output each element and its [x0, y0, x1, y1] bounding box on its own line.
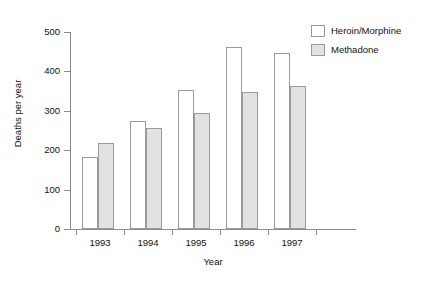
- x-tick: [268, 229, 269, 235]
- y-tick-label: 400: [28, 66, 60, 76]
- y-tick-label: 200: [28, 145, 60, 155]
- bar-chart: 0100200300400500 19931994199519961997 Ye…: [0, 0, 428, 283]
- bar-1994-methadone: [146, 128, 162, 229]
- x-axis-title: Year: [70, 256, 356, 267]
- bar-1997-heroin-morphine: [274, 53, 290, 229]
- plot-area: [70, 32, 355, 229]
- y-tick-label: 100: [28, 185, 60, 195]
- bar-1993-heroin-morphine: [82, 157, 98, 229]
- bar-1993-methadone: [98, 143, 114, 229]
- bar-1995-methadone: [194, 113, 210, 229]
- x-tick: [124, 229, 125, 235]
- x-tick-label: 1995: [172, 238, 220, 248]
- bar-1996-heroin-morphine: [226, 47, 242, 229]
- x-tick: [172, 229, 173, 235]
- x-tick: [316, 229, 317, 235]
- legend-swatch-icon: [311, 44, 325, 56]
- x-tick-label: 1996: [220, 238, 268, 248]
- y-tick-label: 0: [28, 224, 60, 234]
- x-tick: [76, 229, 77, 235]
- y-tick-label: 500: [28, 27, 60, 37]
- y-tick: [64, 229, 70, 230]
- bar-1994-heroin-morphine: [130, 121, 146, 229]
- x-tick-label: 1994: [124, 238, 172, 248]
- legend-label: Heroin/Morphine: [331, 26, 401, 36]
- bar-1997-methadone: [290, 86, 306, 229]
- y-axis-title: Deaths per year: [12, 59, 23, 169]
- x-tick-label: 1997: [268, 238, 316, 248]
- legend-swatch-icon: [311, 25, 325, 37]
- y-tick-label: 300: [28, 106, 60, 116]
- x-tick-label: 1993: [76, 238, 124, 248]
- legend-item: Methadone: [311, 41, 401, 58]
- bar-1995-heroin-morphine: [178, 90, 194, 229]
- legend-item: Heroin/Morphine: [311, 22, 401, 39]
- legend-label: Methadone: [331, 45, 379, 55]
- chart-legend: Heroin/MorphineMethadone: [311, 22, 401, 60]
- x-tick: [220, 229, 221, 235]
- bar-1996-methadone: [242, 92, 258, 229]
